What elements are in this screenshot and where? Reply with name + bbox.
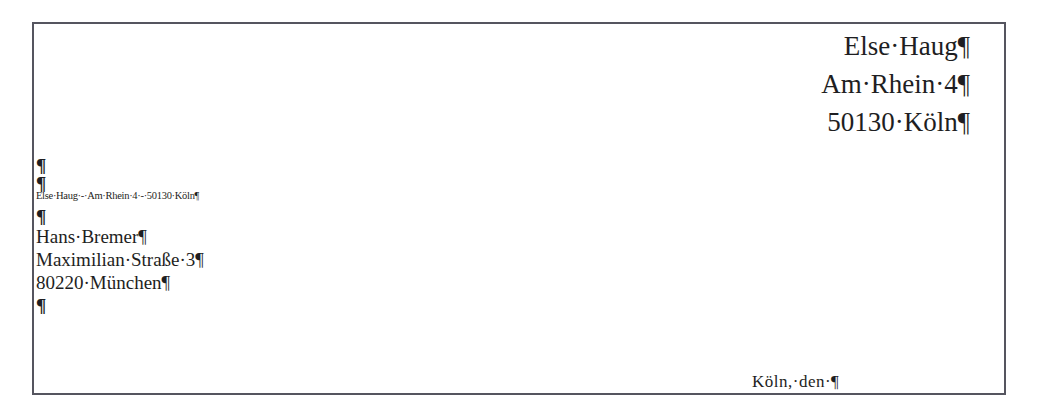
document-frame: Else·Haug¶ Am·Rhein·4¶ 50130·Köln¶ ¶ ¶ E…: [32, 22, 1006, 395]
recipient-city[interactable]: 80220·München¶: [36, 273, 170, 292]
date-line[interactable]: Köln,·den·¶: [752, 373, 839, 390]
recipient-name[interactable]: Hans·Bremer¶: [36, 227, 147, 246]
return-address-line[interactable]: Else·Haug·-·Am·Rhein·4·-·50130·Köln¶: [36, 191, 199, 202]
sender-city[interactable]: 50130·Köln¶: [827, 109, 970, 136]
recipient-street[interactable]: Maximilian·Straße·3¶: [36, 250, 204, 269]
sender-name[interactable]: Else·Haug¶: [844, 33, 970, 60]
empty-paragraph-mark[interactable]: ¶: [36, 296, 46, 315]
empty-paragraph-mark[interactable]: ¶: [36, 207, 46, 226]
sender-street[interactable]: Am·Rhein·4¶: [821, 71, 970, 98]
